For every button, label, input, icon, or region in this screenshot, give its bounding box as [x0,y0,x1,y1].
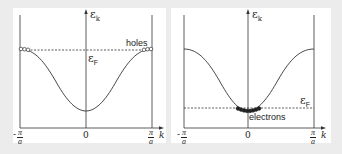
tick-denominator: a [148,138,154,146]
k-tick-minus-pi-over-a: π a [181,129,187,146]
dispersion-curve [184,49,314,111]
carrier-label-electrons: electrons [249,113,286,122]
k-axis-label: k [321,131,326,140]
k-tick-pi-over-a: π a [148,129,154,146]
k-tick-zero: 0 [83,131,89,140]
k-tick-minus-sign: - [177,130,180,139]
energy-axis-arrow-icon [84,9,87,14]
k-tick-zero: 0 [245,131,251,140]
k-tick-minus-sign: - [13,130,16,139]
subscript-F: F [94,59,98,66]
subscript-k: k [258,15,262,23]
k-tick-minus-pi-over-a: π a [17,129,23,146]
band-diagrams [0,0,342,154]
energy-axis-arrow-icon [246,9,249,14]
energy-axis-label: εk [252,9,262,23]
fermi-energy-label: εF [88,53,98,66]
tick-denominator: a [181,138,187,146]
tick-denominator: a [17,138,23,146]
k-tick-pi-over-a: π a [310,129,316,146]
k-axis-label: k [159,131,164,140]
fermi-energy-label: εF [300,95,310,108]
carrier-label-holes: holes [126,39,148,48]
left-band-plot [19,9,164,130]
subscript-k: k [96,15,100,23]
subscript-F: F [306,101,310,108]
tick-denominator: a [310,138,316,146]
energy-axis-label: εk [90,9,100,23]
